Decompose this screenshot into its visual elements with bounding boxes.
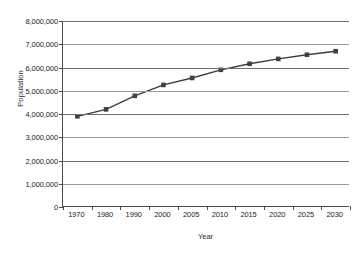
y-axis-tick-labels: 01,000,0002,000,0003,000,0004,000,0005,0… xyxy=(0,0,62,256)
data-point-marker xyxy=(190,76,195,81)
y-axis-tick-label: 2,000,000 xyxy=(26,156,58,165)
data-point-marker xyxy=(333,49,338,54)
y-axis-tick-label: 5,000,000 xyxy=(26,86,58,95)
y-axis-tick xyxy=(59,68,63,69)
x-axis-tick-label: 1990 xyxy=(126,210,142,219)
y-axis-tick xyxy=(59,44,63,45)
gridline xyxy=(63,44,349,45)
plot-area xyxy=(62,21,349,207)
x-axis-tick-label: 2015 xyxy=(240,210,256,219)
y-axis-tick-label: 3,000,000 xyxy=(26,133,58,142)
x-axis-tick-label: 2010 xyxy=(212,210,228,219)
x-axis-tick xyxy=(350,206,351,210)
gridline xyxy=(63,161,349,162)
gridline xyxy=(63,137,349,138)
y-axis-tick xyxy=(59,137,63,138)
y-axis-tick xyxy=(59,184,63,185)
x-axis-tick-label: 2000 xyxy=(154,210,170,219)
y-axis-tick-label: 7,000,000 xyxy=(26,40,58,49)
x-axis-tick-label: 2030 xyxy=(326,210,342,219)
x-axis-tick-label: 2025 xyxy=(298,210,314,219)
y-axis-tick xyxy=(59,91,63,92)
y-axis-tick-label: 6,000,000 xyxy=(26,63,58,72)
y-axis-tick-label: 8,000,000 xyxy=(26,17,58,26)
y-axis-tick xyxy=(59,114,63,115)
y-axis-tick xyxy=(59,161,63,162)
x-axis-tick-labels: 1970198019902000200520102015202020252030 xyxy=(62,210,349,224)
x-axis-tick-label: 2005 xyxy=(183,210,199,219)
y-axis-tick-label: 0 xyxy=(54,203,58,212)
data-point-marker xyxy=(247,61,252,66)
data-point-marker xyxy=(132,94,137,99)
x-axis-tick-label: 1970 xyxy=(68,210,84,219)
y-axis-tick-label: 4,000,000 xyxy=(26,110,58,119)
gridline xyxy=(63,184,349,185)
data-point-marker xyxy=(104,107,109,112)
gridline xyxy=(63,114,349,115)
x-axis-title: Year xyxy=(62,232,349,241)
data-point-marker xyxy=(305,52,310,57)
y-axis-tick xyxy=(59,21,63,22)
gridline xyxy=(63,91,349,92)
gridline xyxy=(63,21,349,22)
data-point-marker xyxy=(161,83,166,88)
y-axis-tick-label: 1,000,000 xyxy=(26,179,58,188)
gridline xyxy=(63,68,349,69)
x-axis-tick-label: 2020 xyxy=(269,210,285,219)
data-point-marker xyxy=(276,57,281,62)
series-line xyxy=(77,51,335,116)
x-axis-tick-label: 1980 xyxy=(97,210,113,219)
population-line-chart: Population 01,000,0002,000,0003,000,0004… xyxy=(0,0,356,256)
